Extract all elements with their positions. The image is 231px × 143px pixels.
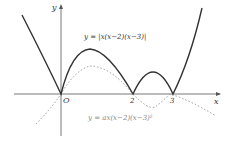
tick-3: 3 (170, 97, 175, 105)
y-axis-arrow-icon (59, 4, 63, 9)
dotted-curve-label: y = ax(x−2)(x−3)² (87, 114, 153, 122)
x-axis-arrow-icon (216, 92, 221, 96)
solid-curve-label: y = |x(x−2)(x−3)| (83, 33, 146, 41)
solid-curve (22, 8, 202, 94)
function-graph: y x O 2 3 y = |x(x−2)(x−3)| y = ax(x−2)(… (0, 0, 231, 143)
origin-label: O (63, 96, 70, 105)
tick-2: 2 (129, 97, 135, 105)
y-axis-label: y (51, 3, 57, 12)
x-axis-label: x (214, 97, 219, 106)
